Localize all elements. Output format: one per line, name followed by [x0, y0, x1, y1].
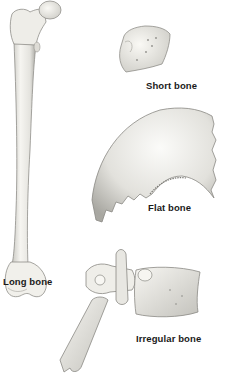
- flat-bone-label: Flat bone: [148, 202, 191, 213]
- short-bone-figure: [120, 26, 170, 72]
- irregular-bone-figure: [60, 250, 200, 373]
- irregular-bone-label: Irregular bone: [136, 333, 201, 344]
- short-bone-label: Short bone: [146, 80, 197, 91]
- bones-illustration: [0, 0, 226, 385]
- long-bone-figure: [5, 1, 61, 297]
- long-bone-label: Long bone: [3, 276, 52, 287]
